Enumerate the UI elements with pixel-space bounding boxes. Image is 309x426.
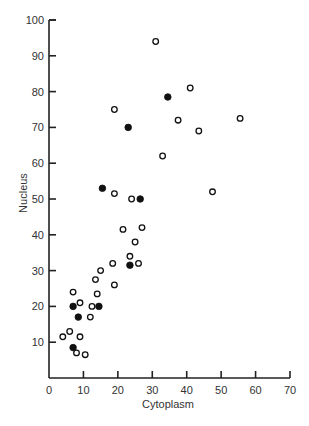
x-tick-label: 10 [77, 384, 89, 396]
open-data-point [70, 289, 76, 295]
filled-data-point [125, 124, 132, 131]
open-data-point [187, 85, 193, 91]
y-tick-label: 50 [32, 193, 44, 205]
open-data-point [160, 153, 166, 159]
filled-data-point [99, 185, 106, 192]
x-axis-ticks: 010203040506070 [46, 371, 296, 396]
open-data-point [93, 277, 99, 283]
x-tick-label: 20 [112, 384, 124, 396]
open-data-point [82, 352, 88, 358]
open-data-point [77, 334, 83, 340]
y-tick-label: 80 [32, 86, 44, 98]
x-tick-label: 60 [249, 384, 261, 396]
open-data-point [132, 239, 138, 245]
filled-data-point [127, 262, 134, 269]
open-data-point [60, 334, 66, 340]
open-data-point [139, 225, 145, 231]
open-data-point [110, 261, 116, 267]
open-data-point [89, 304, 95, 310]
open-data-point [67, 329, 73, 335]
x-tick-label: 0 [46, 384, 52, 396]
open-data-point [237, 116, 243, 122]
y-axis-ticks: 102030405060708090100 [26, 14, 56, 348]
y-tick-label: 40 [32, 229, 44, 241]
axes [49, 20, 290, 378]
filled-data-point [70, 303, 77, 310]
y-tick-label: 10 [32, 336, 44, 348]
open-data-point [120, 227, 126, 233]
open-data-point [112, 107, 118, 113]
x-tick-label: 50 [215, 384, 227, 396]
open-data-point [94, 291, 100, 297]
scatter-chart: 010203040506070 102030405060708090100 Cy… [0, 0, 309, 426]
x-axis-title: Cytoplasm [142, 398, 194, 410]
filled-data-point [137, 196, 144, 203]
open-data-point [175, 117, 181, 123]
y-tick-label: 70 [32, 121, 44, 133]
filled-data-point [75, 314, 82, 321]
x-tick-label: 30 [146, 384, 158, 396]
y-tick-label: 60 [32, 157, 44, 169]
x-tick-label: 70 [284, 384, 296, 396]
open-data-point [98, 268, 104, 274]
y-tick-label: 100 [26, 14, 44, 26]
filled-data-point [165, 94, 172, 101]
filled-data-point [96, 303, 103, 310]
y-tick-label: 30 [32, 265, 44, 277]
open-data-point [88, 314, 94, 320]
open-data-point [127, 253, 133, 259]
open-data-point [136, 261, 142, 267]
open-data-point [112, 282, 118, 288]
x-tick-label: 40 [181, 384, 193, 396]
open-data-point [196, 128, 202, 134]
open-data-point [77, 300, 83, 306]
y-tick-label: 20 [32, 300, 44, 312]
open-data-point [153, 39, 159, 45]
y-tick-label: 90 [32, 50, 44, 62]
open-data-point [210, 189, 216, 195]
y-axis-title: Nucleus [17, 173, 29, 213]
data-points [60, 39, 243, 358]
open-data-point [112, 191, 118, 197]
filled-data-point [70, 344, 77, 351]
open-data-point [129, 196, 135, 202]
